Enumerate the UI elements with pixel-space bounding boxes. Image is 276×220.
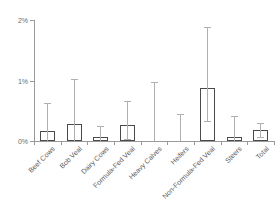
x-tick-mark [167, 141, 168, 145]
error-bar-cap-upper [151, 82, 158, 83]
error-bar-line [234, 116, 235, 141]
category-label: Steers [224, 145, 243, 164]
error-bar-cap-lower [204, 121, 211, 122]
error-bar-line [74, 79, 75, 141]
error-bar-cap-upper [231, 116, 238, 117]
error-bar-line [47, 103, 48, 141]
x-tick-mark [141, 141, 142, 145]
error-bar-line [154, 82, 155, 141]
x-tick-mark [274, 141, 275, 145]
x-tick-mark [61, 141, 62, 145]
x-tick-mark [221, 141, 222, 145]
error-bar-cap-lower [124, 139, 131, 140]
chart-container: 0%1%2% Beef CowsBob VealDairy CowsFormul… [0, 0, 276, 220]
error-bar-cap-upper [257, 123, 264, 124]
x-tick-mark [87, 141, 88, 145]
category-label: Non-Formula-Fed Veal [161, 145, 216, 200]
error-bar-cap-lower [257, 137, 264, 138]
category-label: Heifers [169, 145, 190, 166]
y-tick-label: 0% [0, 138, 28, 145]
error-bar-cap-upper [124, 101, 131, 102]
category-label: Total [254, 145, 269, 160]
x-tick-mark [194, 141, 195, 145]
error-bar-line [180, 114, 181, 141]
error-bar-line [127, 101, 128, 139]
error-bar-cap-upper [71, 79, 78, 80]
y-tick-label: 2% [0, 17, 28, 24]
error-bar-cap-upper [177, 114, 184, 115]
x-tick-mark [247, 141, 248, 145]
error-bar-cap-upper [97, 126, 104, 127]
y-tick-label: 1% [0, 77, 28, 84]
error-bar-line [207, 27, 208, 121]
x-tick-mark [34, 141, 35, 145]
category-label: Beef Cows [27, 145, 56, 174]
x-axis-line [34, 141, 274, 142]
error-bar-cap-upper [204, 27, 211, 28]
x-tick-mark [114, 141, 115, 145]
category-label: Bob Veal [58, 145, 83, 170]
error-bar-line [100, 126, 101, 141]
error-bar-line [260, 123, 261, 137]
error-bar-cap-upper [44, 103, 51, 104]
